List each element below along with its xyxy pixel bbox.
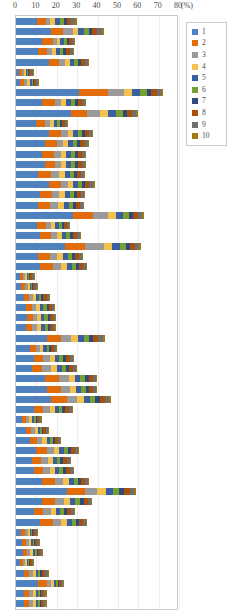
legend-item-2[interactable]: 2 [192, 38, 226, 50]
stacked-bar [16, 28, 104, 35]
bar-segment-series-2 [40, 191, 51, 198]
bar-segment-series-10 [55, 314, 56, 321]
stacked-bar [16, 89, 163, 96]
bar-segment-series-10 [78, 447, 79, 454]
bar-segment-series-3 [93, 212, 107, 219]
bar-segment-series-1 [16, 171, 38, 178]
legend-item-1[interactable]: 1 [192, 26, 226, 38]
bar-segment-series-1 [16, 396, 51, 403]
table-row [16, 151, 177, 158]
table-row [16, 529, 177, 536]
stacked-bar [16, 273, 35, 280]
bar-segment-series-4 [104, 243, 112, 250]
bar-segment-series-10 [74, 508, 75, 515]
table-row [16, 48, 177, 55]
bar-segment-series-1 [16, 263, 40, 270]
stacked-bar [16, 559, 34, 566]
bar-segment-series-2 [49, 130, 61, 137]
legend-item-4[interactable]: 4 [192, 61, 226, 73]
bar-segment-series-3 [59, 375, 69, 382]
bar-segment-series-2 [34, 467, 43, 474]
table-row [16, 335, 177, 342]
bar-segment-series-5 [108, 110, 116, 117]
legend-item-8[interactable]: 8 [192, 107, 226, 119]
stacked-bar [16, 232, 81, 239]
bar-segment-series-1 [16, 590, 24, 597]
bar-segment-series-3 [55, 478, 63, 485]
stacked-bar [16, 335, 105, 342]
x-axis-unit-label: (%) [181, 1, 193, 11]
bar-segment-series-2 [51, 28, 63, 35]
bar-segment-series-3 [61, 335, 71, 342]
legend-label: 8 [202, 109, 206, 117]
bar-segment-series-10 [136, 110, 138, 117]
table-row [16, 478, 177, 485]
legend-label: 9 [202, 121, 206, 129]
bar-segment-series-10 [49, 294, 50, 301]
bar-segment-series-10 [67, 120, 68, 127]
bar-segment-series-1 [16, 181, 49, 188]
bar-segment-series-10 [76, 365, 77, 372]
table-row [16, 263, 177, 270]
table-row [16, 222, 177, 229]
table-row [16, 253, 177, 260]
bar-segment-series-10 [85, 151, 86, 158]
stacked-bar [16, 570, 49, 577]
bar-segment-series-5 [132, 89, 140, 96]
stacked-bar [16, 324, 56, 331]
legend-label: 3 [202, 51, 206, 59]
legend-item-5[interactable]: 5 [192, 72, 226, 84]
x-tick-10: 10 [31, 1, 39, 11]
bar-segment-series-1 [16, 365, 32, 372]
table-row [16, 467, 177, 474]
legend-swatch-icon [192, 29, 198, 35]
table-row [16, 18, 177, 25]
bar-segment-series-1 [16, 375, 45, 382]
legend-item-10[interactable]: 10 [192, 130, 226, 142]
legend-label: 1 [202, 28, 206, 36]
bar-segment-series-3 [67, 396, 77, 403]
table-row [16, 437, 177, 444]
bar-segment-series-1 [16, 151, 42, 158]
table-row [16, 202, 177, 209]
stacked-bar [16, 519, 87, 526]
table-row [16, 600, 177, 607]
bar-segment-series-10 [42, 549, 43, 556]
bar-segment-series-10 [86, 263, 87, 270]
bar-segment-series-1 [16, 202, 38, 209]
bar-segment-series-10 [161, 89, 163, 96]
bar-segment-series-3 [63, 28, 73, 35]
legend-item-3[interactable]: 3 [192, 49, 226, 61]
bar-segment-series-2 [38, 580, 46, 587]
bar-segment-series-10 [37, 529, 38, 536]
legend-item-9[interactable]: 9 [192, 119, 226, 131]
x-tick-60: 60 [133, 1, 141, 11]
table-row [16, 171, 177, 178]
bar-segment-series-10 [41, 416, 42, 423]
legend-item-6[interactable]: 6 [192, 84, 226, 96]
bar-segment-series-2 [36, 120, 44, 127]
bar-segment-series-10 [33, 69, 34, 76]
bar-segment-series-1 [16, 253, 38, 260]
bar-segment-series-10 [109, 396, 111, 403]
bar-segment-series-2 [42, 478, 54, 485]
table-row [16, 69, 177, 76]
bar-segment-series-10 [54, 304, 55, 311]
bar-segment-series-2 [38, 48, 46, 55]
table-row [16, 314, 177, 321]
table-row [16, 232, 177, 239]
legend-label: 5 [202, 74, 206, 82]
bar-segment-series-2 [32, 365, 42, 372]
table-row [16, 304, 177, 311]
x-tick-0: 0 [13, 1, 17, 11]
stacked-bar [16, 457, 71, 464]
bar-segment-series-10 [84, 171, 85, 178]
stacked-bar [16, 263, 87, 270]
bar-segment-series-10 [72, 406, 73, 413]
legend-swatch-icon [192, 98, 198, 104]
table-row [16, 355, 177, 362]
bar-segment-series-3 [87, 110, 99, 117]
bar-segment-series-1 [16, 28, 51, 35]
table-row [16, 559, 177, 566]
legend-item-7[interactable]: 7 [192, 96, 226, 108]
